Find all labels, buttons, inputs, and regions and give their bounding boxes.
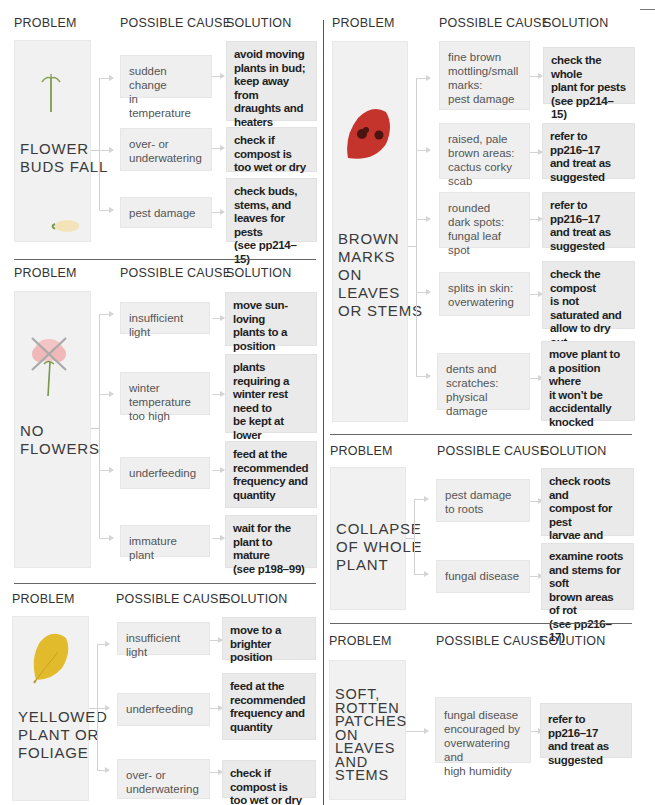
solution-box: wait for the plant to mature (see p198–9… bbox=[225, 515, 317, 568]
header-cause: POSSIBLE CAUSE bbox=[120, 266, 231, 280]
arrow-icon bbox=[99, 314, 113, 315]
arrow-icon bbox=[530, 152, 542, 153]
arrow-icon bbox=[406, 731, 428, 732]
cause-box: fungal disease bbox=[436, 560, 530, 593]
cause-box: pest damage bbox=[120, 197, 212, 228]
arrow-icon bbox=[416, 78, 430, 79]
cause-box: dents and scratches: physical damage bbox=[437, 353, 530, 410]
solution-box: check buds, stems, and leaves for pests … bbox=[226, 178, 317, 242]
cause-box: over- or underwatering bbox=[120, 128, 212, 171]
arrow-icon bbox=[210, 708, 222, 709]
page-corner-mark bbox=[640, 9, 655, 10]
header-solution: SOLUTION bbox=[226, 16, 292, 30]
cause-box: fine brown mottling/small marks: pest da… bbox=[439, 41, 530, 110]
problem-label: BROWN MARKS ON LEAVES OR STEMS bbox=[338, 230, 423, 320]
arrow-icon bbox=[97, 644, 109, 645]
connector bbox=[99, 78, 100, 210]
connector bbox=[414, 499, 415, 574]
solution-box: check the whole plant for pests (see pp2… bbox=[543, 47, 635, 104]
arrow-icon bbox=[212, 318, 224, 319]
cause-box: splits in skin: overwatering bbox=[439, 272, 530, 316]
header-problem: PROBLEM bbox=[14, 266, 77, 280]
crossed-flower-icon bbox=[28, 336, 70, 398]
solution-box: check if compost is too wet or dry bbox=[226, 127, 317, 172]
arrow-icon bbox=[99, 470, 113, 471]
problem-label: FLOWER BUDS FALL bbox=[20, 140, 108, 176]
arrow-icon bbox=[97, 708, 109, 709]
connector bbox=[416, 78, 417, 376]
cause-box: winter temperature too high bbox=[120, 372, 210, 415]
solution-box: check the compost is not saturated and a… bbox=[542, 261, 635, 329]
column-divider bbox=[323, 20, 324, 805]
solution-box: check if compost is too wet or dry bbox=[222, 760, 316, 798]
cause-box: insufficient light bbox=[117, 622, 210, 655]
yellow-leaf-icon bbox=[28, 628, 72, 684]
arrow-icon bbox=[210, 640, 222, 641]
cause-box: underfeeding bbox=[120, 457, 210, 489]
arrow-icon bbox=[414, 574, 428, 575]
header-cause: POSSIBLE CAUSE bbox=[439, 16, 550, 30]
connector bbox=[408, 246, 416, 247]
arrow-icon bbox=[212, 394, 224, 395]
solution-box: avoid moving plants in bud; keep away fr… bbox=[226, 41, 317, 121]
solution-box: examine roots and stems for soft brown a… bbox=[541, 543, 634, 610]
solution-box: feed at the recommended frequency and qu… bbox=[222, 673, 316, 740]
connector bbox=[406, 538, 414, 539]
solution-box: refer to pp216–17 and treat as suggested bbox=[542, 192, 635, 248]
arrow-icon bbox=[414, 499, 428, 500]
header-cause: POSSIBLE CAUSE bbox=[437, 444, 548, 458]
arrow-icon bbox=[99, 150, 113, 151]
cause-box: rounded dark spots: fungal leaf spot bbox=[439, 192, 530, 248]
problem-label: NO FLOWERS bbox=[20, 422, 100, 458]
connector bbox=[89, 708, 97, 709]
header-solution: SOLUTION bbox=[226, 266, 292, 280]
arrow-icon bbox=[97, 770, 109, 771]
header-cause: POSSIBLE CAUSE bbox=[436, 634, 547, 648]
problem-label: COLLAPSE OF WHOLE PLANT bbox=[336, 520, 422, 574]
arrow-icon bbox=[530, 76, 542, 77]
arrow-icon bbox=[416, 292, 430, 293]
header-problem: PROBLEM bbox=[329, 634, 392, 648]
cause-box: sudden change in temperature bbox=[120, 55, 212, 98]
header-solution: SOLUTION bbox=[543, 16, 609, 30]
fallen-bud-icon bbox=[48, 218, 80, 234]
connector bbox=[91, 150, 99, 151]
arrow-icon bbox=[530, 294, 542, 295]
arrow-icon bbox=[212, 212, 224, 213]
solution-box: plants requiring a winter rest need to b… bbox=[225, 354, 317, 433]
arrow-icon bbox=[530, 219, 542, 220]
solution-box: refer to pp216–17 and treat as suggested bbox=[540, 703, 632, 758]
solution-box: refer to pp216–17 and treat as suggested bbox=[542, 123, 635, 179]
section-divider bbox=[14, 259, 316, 260]
solution-box: move plant to a position where it won’t … bbox=[541, 341, 635, 421]
arrow-icon bbox=[99, 394, 113, 395]
header-solution: SOLUTION bbox=[541, 444, 607, 458]
arrow-icon bbox=[99, 78, 113, 79]
cause-box: insufficient light bbox=[120, 302, 210, 334]
flower-bud-icon bbox=[38, 72, 64, 112]
arrow-icon bbox=[99, 210, 113, 211]
header-problem: PROBLEM bbox=[332, 16, 395, 30]
connector bbox=[97, 644, 98, 770]
solution-box: move sun-loving plants to a position in … bbox=[225, 292, 317, 346]
header-solution: SOLUTION bbox=[222, 592, 288, 606]
arrow-icon bbox=[212, 470, 224, 471]
cause-box: immature plant bbox=[120, 525, 210, 557]
connector bbox=[99, 314, 100, 538]
arrow-icon bbox=[416, 376, 430, 377]
header-problem: PROBLEM bbox=[12, 592, 75, 606]
arrow-icon bbox=[210, 772, 222, 773]
header-cause: POSSIBLE CAUSE bbox=[116, 592, 227, 606]
problem-label: YELLOWED PLANT OR FOLIAGE bbox=[18, 708, 108, 762]
spotted-leaf-icon bbox=[344, 106, 394, 164]
header-cause: POSSIBLE CAUSE bbox=[120, 16, 231, 30]
connector bbox=[91, 428, 99, 429]
solution-box: check roots and compost for pest larvae … bbox=[541, 468, 634, 536]
arrow-icon bbox=[212, 148, 224, 149]
arrow-icon bbox=[416, 150, 430, 151]
arrow-icon bbox=[212, 538, 224, 539]
cause-box: underfeeding bbox=[117, 693, 210, 726]
cause-box: fungal disease encouraged by overwaterin… bbox=[435, 697, 531, 763]
header-solution: SOLUTION bbox=[540, 634, 606, 648]
problem-label: SOFT, ROTTEN PATCHES ON LEAVES AND STEMS bbox=[335, 688, 407, 783]
